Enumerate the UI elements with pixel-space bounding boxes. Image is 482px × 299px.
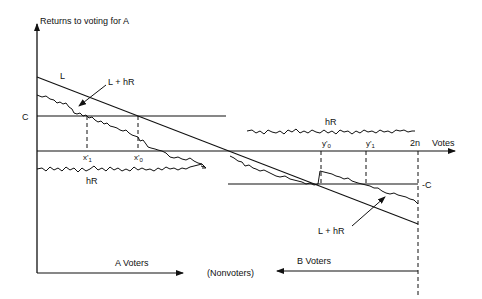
y1-prime-label: y'1 <box>366 139 376 149</box>
c-label: C <box>22 112 29 122</box>
l-label: L <box>60 71 65 81</box>
y0-prime-label: y'0 <box>322 139 332 149</box>
voting-returns-diagram: Returns to voting for A Votes C -C L hR … <box>0 0 482 299</box>
hr-curve-left <box>37 164 206 172</box>
two-n-label: 2n <box>410 138 420 148</box>
votes-axis-label: Votes <box>432 138 455 148</box>
hr-left-label: hR <box>86 176 98 186</box>
hr-right-label: hR <box>325 117 337 127</box>
hr-curve-right <box>247 129 415 134</box>
neg-c-label: -C <box>422 180 432 190</box>
l-plus-hr-arrow-top <box>79 85 106 106</box>
x0-prime-label: x'0 <box>134 153 144 163</box>
l-plus-hr-label-bottom: L + hR <box>318 226 345 236</box>
l-plus-hr-label-top: L + hR <box>108 77 135 87</box>
l-plus-hr-curve <box>37 95 418 204</box>
l-plus-hr-arrow-bottom <box>352 197 385 226</box>
y-axis-label: Returns to voting for A <box>40 16 129 26</box>
a-voters-label: A Voters <box>115 258 149 268</box>
x1-prime-label: x'1 <box>83 153 93 163</box>
b-voters-label: B Voters <box>297 256 332 266</box>
nonvoters-label: (Nonvoters) <box>207 268 254 278</box>
